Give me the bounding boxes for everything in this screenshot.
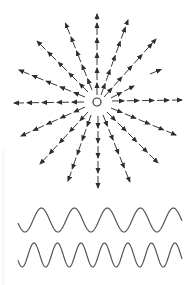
arrow-segment-icon [72,158,76,169]
arrow-segment-icon [40,156,47,164]
arrow-segment-icon [70,123,78,132]
arrow-segment-icon [104,88,112,97]
arrow-segment-icon [125,171,129,182]
arrow-segment-icon [82,65,87,76]
arrow-segment-icon [33,126,44,131]
arrow-segment-icon [111,92,122,98]
arrow-segment-icon [87,115,91,126]
arrow-segment-icon [21,132,30,136]
arrow-segment-icon [77,51,81,62]
ray-up-right-1 [101,20,128,95]
arrow-segment-icon [47,119,58,124]
arrow-segment-icon [153,125,164,130]
arrow-segment-icon [71,37,75,48]
arrow-segment-icon [80,84,89,93]
ray-down-right-2 [107,112,158,163]
arrow-segment-icon [48,52,57,61]
arrow-segment-icon [65,23,70,34]
ray-up-left-3 [65,23,92,90]
arrow-segment-icon [109,129,114,140]
ray-isolated-right [150,70,161,75]
arrow-segment-icon [60,87,71,92]
arrow-segment-icon [80,112,88,121]
arrow-segment-icon [111,108,122,113]
wave-low-frequency [18,208,182,232]
arrow-segment-icon [124,66,132,75]
point-source-circle [93,98,101,106]
arrow-segment-icon [103,115,108,126]
ray-down-left-3 [21,107,85,136]
arrow-segment-icon [166,131,176,135]
arrow-segment-icon [82,129,86,140]
arrow-segment-icon [125,114,136,119]
arrow-segment-icon [107,112,116,121]
ray-down-left-2 [40,112,88,164]
radial-field-diagram [0,0,196,285]
arrow-segment-icon [106,70,110,81]
arrow-segment-icon [58,62,67,71]
arrow-segment-icon [60,113,71,118]
arrow-segment-icon [150,70,161,75]
arrow-segment-icon [144,43,152,52]
arrow-segment-icon [126,20,128,24]
ray-down-right-1 [111,108,176,135]
ray-down-left-1 [68,115,91,181]
arrow-segment-icon [139,120,150,125]
arrow-segment-icon [120,157,125,168]
arrow-segment-icon [128,133,137,142]
arrow-segment-icon [19,70,30,74]
field-rays [14,14,182,188]
arrow-segment-icon [139,144,148,153]
arrow-segment-icon [74,93,85,98]
ray-up-left-2 [37,41,88,92]
arrow-segment-icon [154,39,156,41]
arrow-segment-icon [68,172,71,181]
ray-up-left-1 [19,70,85,97]
ray-up-right-3 [111,86,134,98]
arrow-segment-icon [101,84,105,95]
ray-left [14,102,84,103]
arrow-segment-icon [74,107,85,112]
arrow-segment-icon [114,143,119,154]
arrow-segment-icon [114,77,122,86]
ray-right [112,100,182,101]
arrow-segment-icon [37,41,46,50]
ray-down-right-3 [103,115,130,182]
arrow-segment-icon [124,86,134,91]
arrow-segment-icon [60,134,68,143]
arrow-segment-icon [49,145,57,154]
arrow-segment-icon [32,75,43,80]
arrow-segment-icon [88,79,92,90]
wave-group [18,208,182,267]
arrow-segment-icon [134,55,142,64]
arrow-segment-icon [46,81,57,86]
arrow-segment-icon [149,154,158,163]
arrow-segment-icon [77,143,81,154]
arrow-segment-icon [116,41,120,52]
arrow-segment-icon [69,73,78,82]
arrow-segment-icon [121,27,125,38]
arrow-segment-icon [118,123,127,132]
wave-high-frequency [18,243,182,267]
arrow-segment-icon [111,56,115,67]
